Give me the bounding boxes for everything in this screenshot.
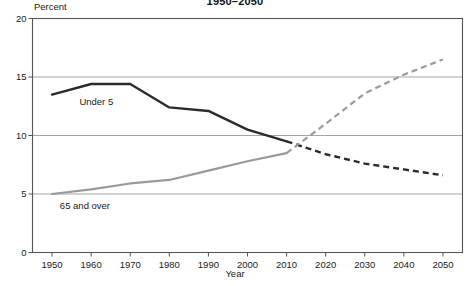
y-tick-label: 20 [3,13,27,24]
data-series [52,59,443,194]
y-tick-label: 5 [3,188,27,199]
series-line-solid-1 [52,153,287,194]
series-line-dashed-1 [287,59,443,153]
series-line-solid-0 [52,84,287,141]
x-axis-ticks [52,253,443,257]
series-label-65-and-over: 65 and over [60,200,110,211]
series-line-dashed-0 [287,141,443,175]
chart-container: 1950–2050 Percent 05101520 1950196019701… [0,0,470,286]
y-tick-label: 15 [3,71,27,82]
y-tick-label: 0 [3,247,27,258]
gridlines [33,77,463,194]
x-axis-title: Year [0,268,470,279]
plot-area [0,0,470,286]
y-tick-label: 10 [3,130,27,141]
y-axis-ticks [29,19,33,253]
series-label-under-5: Under 5 [79,96,113,107]
